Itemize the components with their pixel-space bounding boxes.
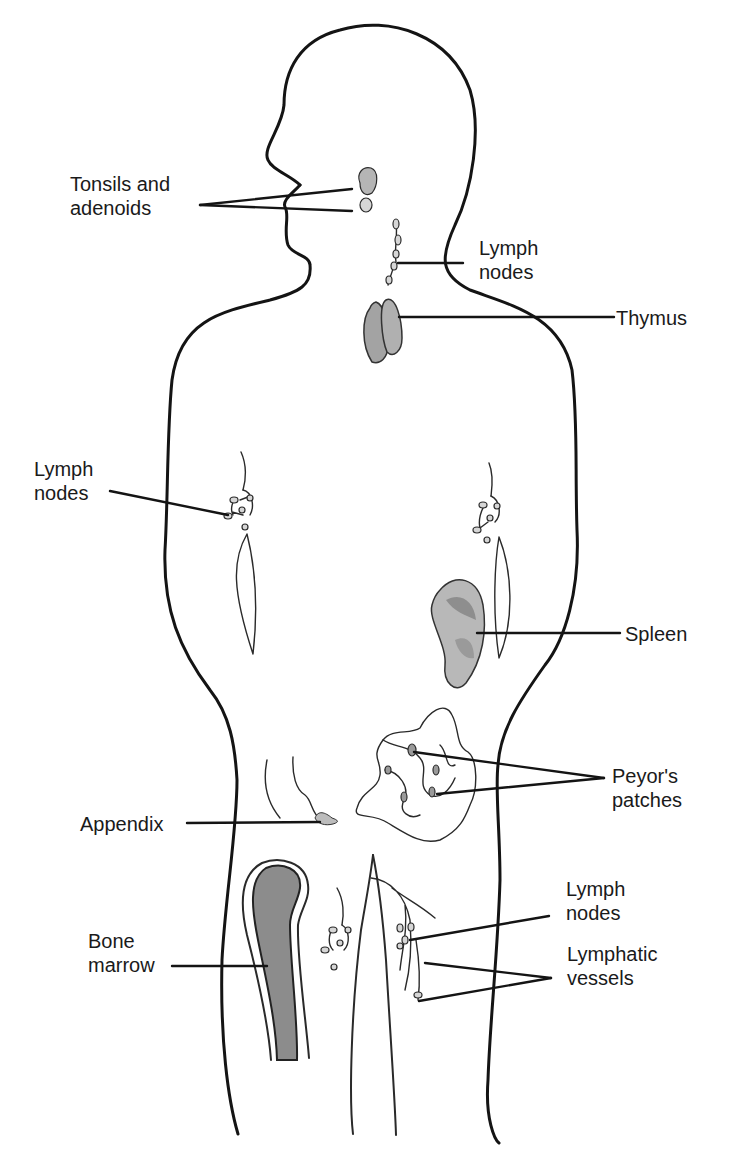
label-appendix-line1: Appendix xyxy=(80,812,163,836)
label-bone-marrow-line2: marrow xyxy=(88,953,155,977)
leader-tonsils xyxy=(200,189,352,205)
label-appendix: Appendix xyxy=(80,812,163,836)
label-bone-marrow: Bone marrow xyxy=(88,929,155,977)
label-axillary-lymph-nodes-line1: Lymph xyxy=(34,457,93,481)
label-peyers-patches-line2: patches xyxy=(612,788,682,812)
neck-lymph-nodes-illustration xyxy=(386,219,401,285)
label-axillary-lymph-nodes-line2: nodes xyxy=(34,481,93,505)
left-groin-lymph-nodes-illustration xyxy=(321,888,351,970)
label-groin-lymph-nodes: Lymph nodes xyxy=(566,877,625,925)
leader-adenoids xyxy=(200,205,352,211)
label-thymus-line1: Thymus xyxy=(616,306,687,330)
label-spleen: Spleen xyxy=(625,622,687,646)
label-neck-lymph-nodes-line1: Lymph xyxy=(479,236,538,260)
tonsils-adenoids-illustration xyxy=(359,168,377,212)
label-axillary-lymph-nodes: Lymph nodes xyxy=(34,457,93,505)
label-lymphatic-vessels-line1: Lymphatic xyxy=(567,942,657,966)
label-peyers-patches-line1: Peyor's xyxy=(612,764,682,788)
label-groin-lymph-nodes-line1: Lymph xyxy=(566,877,625,901)
leader-peyers-patches-upper xyxy=(414,752,604,778)
label-tonsils-line2: adenoids xyxy=(70,196,170,220)
leader-lines xyxy=(110,189,620,1001)
label-neck-lymph-nodes: Lymph nodes xyxy=(479,236,538,284)
appendix-illustration xyxy=(265,757,337,825)
leader-appendix xyxy=(187,822,320,823)
leader-lymphatic-vessels-lower xyxy=(419,978,551,1001)
leader-groin-lymph-nodes xyxy=(410,916,549,940)
label-thymus: Thymus xyxy=(616,306,687,330)
intestines-illustration xyxy=(356,708,476,841)
left-axillary-lymph-nodes-illustration xyxy=(224,452,256,654)
label-tonsils-adenoids: Tonsils and adenoids xyxy=(70,172,170,220)
label-groin-lymph-nodes-line2: nodes xyxy=(566,901,625,925)
label-tonsils-line1: Tonsils and xyxy=(70,172,170,196)
leader-axillary-lymph-nodes xyxy=(110,491,228,515)
label-spleen-line1: Spleen xyxy=(625,622,687,646)
label-peyers-patches: Peyor's patches xyxy=(612,764,682,812)
label-bone-marrow-line1: Bone xyxy=(88,929,155,953)
thymus-illustration xyxy=(364,299,402,362)
femur-bone-marrow-illustration xyxy=(243,860,309,1060)
leader-lymphatic-vessels-upper xyxy=(425,963,551,978)
leader-peyers-patches-lower xyxy=(437,778,604,794)
label-neck-lymph-nodes-line2: nodes xyxy=(479,260,538,284)
label-lymphatic-vessels-line2: vessels xyxy=(567,966,657,990)
label-lymphatic-vessels: Lymphatic vessels xyxy=(567,942,657,990)
